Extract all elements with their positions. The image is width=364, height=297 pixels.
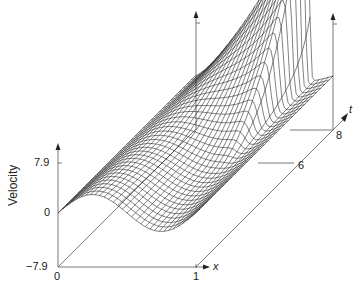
wireframe-mesh [58,0,333,231]
t-axis-label: t [349,104,352,115]
surface-plot [0,0,364,297]
t-tick-label-6: 6 [298,160,304,171]
mesh-line-x [104,27,241,197]
mesh-line-x [182,80,319,224]
velocity-axis-arrow-icon [56,143,61,150]
mesh-line-x [136,0,273,221]
x-axis-label: x [213,261,219,272]
axes [56,11,349,270]
mesh-line-x [95,39,232,195]
y-axis-label: Velocity [6,165,20,206]
y-tick-label-top: 7.9 [34,157,49,168]
t-axis [196,117,346,267]
x-tick-label-zero: 0 [54,271,60,282]
mesh-line-x [196,76,333,213]
mesh-line-x [173,17,310,229]
x-axis-arrow-icon [203,265,210,270]
y-tick-label-zero: 0 [44,207,50,218]
mesh-line-x [191,77,328,217]
mesh-line-x [187,79,324,221]
mesh-line-t [127,131,265,154]
y-tick-label-bottom: −7.9 [26,261,48,272]
mesh-line-x [164,0,301,231]
x-tick-label-one: 1 [193,271,199,282]
back-right-axis-arrow-icon [331,13,336,20]
back-left-axis-arrow-icon [194,11,199,18]
t-tick-label-8: 8 [336,130,342,141]
mesh-line-t [191,0,329,85]
